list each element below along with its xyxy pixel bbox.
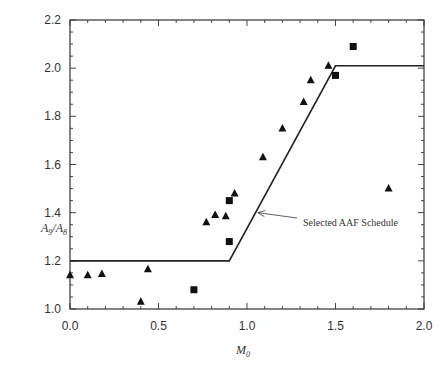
annotation-arrow <box>258 213 297 218</box>
y-axis-title: A9/A8 <box>40 221 67 237</box>
square-marker <box>332 72 339 79</box>
triangle-marker <box>307 76 315 84</box>
x-tick-label: 1.5 <box>327 319 344 333</box>
triangle-marker <box>259 153 267 161</box>
triangle-marker <box>231 189 239 197</box>
x-axis-title: M0 <box>235 343 250 359</box>
y-tick-label: 1.2 <box>44 254 61 268</box>
data-markers <box>66 43 393 305</box>
triangle-marker <box>137 297 145 305</box>
y-tick-label: 1.6 <box>44 158 61 172</box>
y-tick-label: 1.0 <box>44 302 61 316</box>
schedule-line <box>70 66 424 261</box>
y-tick-label: 1.8 <box>44 109 61 123</box>
triangle-marker <box>144 265 152 273</box>
triangle-marker <box>202 218 210 226</box>
triangle-marker <box>66 271 74 279</box>
square-marker <box>190 286 197 293</box>
triangle-marker <box>98 270 106 278</box>
y-tick-label: 2.0 <box>44 61 61 75</box>
triangle-marker <box>84 271 92 279</box>
triangle-marker <box>385 184 393 192</box>
x-tick-label: 0.5 <box>150 319 167 333</box>
triangle-marker <box>324 61 332 68</box>
triangle-marker <box>211 211 219 219</box>
y-tick-label: 1.4 <box>44 206 61 220</box>
square-marker <box>226 238 233 245</box>
aaf-schedule-line <box>70 66 424 261</box>
x-tick-label: 2.0 <box>416 319 433 333</box>
square-marker <box>350 43 357 50</box>
triangle-marker <box>300 97 308 105</box>
annotation: Selected AAF Schedule <box>258 211 399 228</box>
x-tick-label: 0.0 <box>62 319 79 333</box>
axis-ticks <box>70 20 424 309</box>
triangle-marker <box>278 124 286 132</box>
chart: 0.00.51.01.52.01.01.21.41.61.82.02.2 Sel… <box>0 0 445 369</box>
annotation-label: Selected AAF Schedule <box>303 217 399 228</box>
square-marker <box>226 197 233 204</box>
plot-border <box>70 20 424 309</box>
plot-frame <box>70 20 424 309</box>
triangle-marker <box>222 212 230 220</box>
tick-labels: 0.00.51.01.52.01.01.21.41.61.82.02.2 <box>44 13 432 333</box>
x-tick-label: 1.0 <box>239 319 256 333</box>
y-tick-label: 2.2 <box>44 13 61 27</box>
